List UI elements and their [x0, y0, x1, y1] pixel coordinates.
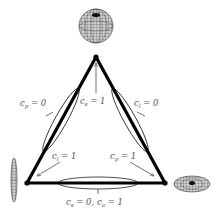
- label-cl1: cl = 1: [52, 151, 76, 162]
- sphere-icon: [79, 9, 113, 43]
- label-cp1: cp = 1: [110, 151, 136, 163]
- shape-triangle-diagram: cp = 0 cs = 1 cl = 0 cl = 1 cp = 1 cs = …: [0, 0, 220, 216]
- label-cp0: cp = 0: [20, 98, 47, 110]
- label-cl0: cl = 0: [134, 98, 159, 109]
- label-bottom: cs = 0, ca = 1: [66, 197, 123, 208]
- planar-disc-icon: [174, 176, 210, 192]
- linear-ellipsoid-icon: [11, 158, 17, 202]
- label-cs1: cs = 1: [80, 96, 106, 107]
